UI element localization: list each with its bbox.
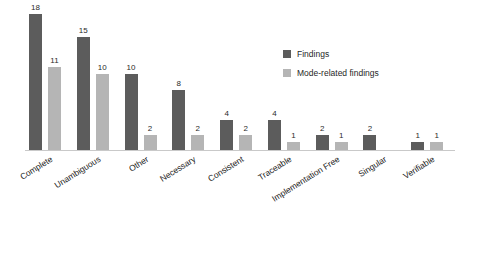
bar-wrap: 8	[172, 14, 185, 150]
bar	[239, 135, 252, 150]
bar	[268, 120, 281, 150]
legend-label-mode-related-findings: Mode-related findings	[297, 68, 379, 78]
bar-group: 41	[268, 14, 300, 150]
bar	[172, 90, 185, 150]
bar-value-label: 1	[339, 131, 343, 140]
bar-chart: 1811151010282424121211 CompleteUnambiguo…	[0, 0, 478, 260]
bar	[191, 135, 204, 150]
bar-group: 11	[411, 14, 443, 150]
bar	[48, 67, 61, 150]
bar-value-label: 10	[98, 63, 107, 72]
bar-group: 1510	[77, 14, 109, 150]
bar-wrap: 11	[48, 14, 61, 150]
bar	[125, 74, 138, 150]
legend-swatch-findings-icon	[283, 50, 291, 58]
bar	[96, 74, 109, 150]
bar-group: 1811	[29, 14, 61, 150]
bar-value-label: 1	[291, 131, 295, 140]
bar-group: 42	[220, 14, 252, 150]
bar	[287, 142, 300, 150]
bar-wrap: 10	[96, 14, 109, 150]
x-tick-label: Traceable	[256, 154, 293, 182]
bar-value-label: 2	[148, 124, 152, 133]
bar	[430, 142, 443, 150]
legend-swatch-mode-related-findings-icon	[283, 69, 291, 77]
legend-item-findings: Findings	[283, 49, 379, 59]
bar-value-label: 11	[50, 56, 58, 65]
bar-group: 21	[316, 14, 348, 150]
bar-wrap: 1	[411, 14, 424, 150]
bar-group: 2	[363, 14, 376, 150]
chart-legend: Findings Mode-related findings	[283, 49, 379, 78]
legend-item-mode-related-findings: Mode-related findings	[283, 68, 379, 78]
x-tick-label: Unambiguous	[52, 154, 102, 190]
bar	[363, 135, 376, 150]
legend-label-findings: Findings	[297, 49, 329, 59]
bar-wrap: 2	[316, 14, 329, 150]
bar	[77, 37, 90, 150]
bar-wrap: 18	[29, 14, 42, 150]
bar-value-label: 4	[224, 109, 228, 118]
bar	[316, 135, 329, 150]
bar-wrap: 2	[239, 14, 252, 150]
bar	[29, 14, 42, 150]
bar-value-label: 4	[272, 109, 276, 118]
x-tick-label: Other	[127, 154, 150, 174]
bar-value-label: 18	[31, 3, 40, 12]
bar-value-label: 1	[415, 131, 419, 140]
bar-value-label: 2	[196, 124, 200, 133]
bar	[335, 142, 348, 150]
bar-value-label: 1	[434, 131, 438, 140]
bar-wrap: 1	[287, 14, 300, 150]
bar-value-label: 10	[127, 63, 136, 72]
bar-wrap: 2	[191, 14, 204, 150]
x-tick-label: Singular	[357, 154, 389, 179]
x-tick-label: Necessary	[158, 154, 197, 184]
bar-group: 102	[125, 14, 157, 150]
bar	[220, 120, 233, 150]
bar-wrap: 2	[144, 14, 157, 150]
bar-wrap: 2	[363, 14, 376, 150]
x-tick-label: Verifiable	[402, 154, 437, 181]
bar-value-label: 2	[368, 124, 372, 133]
bar-wrap: 4	[220, 14, 233, 150]
x-tick-label: Consistent	[206, 154, 245, 184]
bar-group: 82	[172, 14, 204, 150]
bar-value-label: 2	[320, 124, 324, 133]
bar-wrap: 1	[335, 14, 348, 150]
bar-wrap: 15	[77, 14, 90, 150]
bar	[411, 142, 424, 150]
bar-wrap: 4	[268, 14, 281, 150]
bar	[144, 135, 157, 150]
bar-value-label: 8	[177, 79, 181, 88]
bar-value-label: 2	[243, 124, 247, 133]
plot-area: 1811151010282424121211	[25, 14, 455, 150]
bar-value-label: 15	[79, 26, 88, 35]
x-tick-label: Complete	[18, 154, 54, 182]
x-axis-tick-labels: CompleteUnambiguousOtherNecessaryConsist…	[25, 150, 455, 250]
bar-wrap: 10	[125, 14, 138, 150]
bar-wrap: 1	[430, 14, 443, 150]
